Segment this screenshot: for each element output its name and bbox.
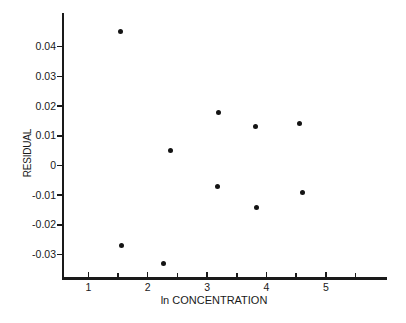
x-tick-label: 2 (136, 281, 160, 293)
x-minor-tick (355, 273, 357, 277)
x-axis-line (62, 277, 387, 279)
data-point (215, 184, 220, 189)
data-point (119, 243, 124, 248)
y-tick (57, 76, 62, 78)
x-minor-tick (295, 273, 297, 277)
data-point (300, 190, 305, 195)
y-tick-label: -0.01 (12, 189, 56, 202)
y-tick (57, 224, 62, 226)
y-tick (57, 165, 62, 167)
x-minor-tick (117, 273, 119, 277)
data-point (118, 29, 123, 34)
x-tick-label: 1 (76, 281, 100, 293)
data-point (254, 205, 259, 210)
x-major-tick (266, 272, 268, 277)
y-tick-label: -0.03 (12, 248, 56, 261)
plot-area: RESIDUAL ln CONCENTRATION 123450.040.030… (0, 0, 406, 323)
y-tick-label: -0.02 (12, 218, 56, 231)
x-major-tick (206, 272, 208, 277)
y-tick (57, 46, 62, 48)
x-axis-title: ln CONCENTRATION (161, 294, 268, 306)
x-major-tick (88, 272, 90, 277)
residual-scatter-figure: RESIDUAL ln CONCENTRATION 123450.040.030… (0, 0, 406, 323)
x-minor-tick (236, 273, 238, 277)
x-minor-tick (177, 273, 179, 277)
y-tick (57, 194, 62, 196)
y-tick (57, 254, 62, 256)
y-tick-label: 0.03 (12, 70, 56, 83)
x-major-tick (325, 272, 327, 277)
data-point (216, 110, 221, 115)
x-major-tick (147, 272, 149, 277)
y-tick-label: 0 (12, 159, 56, 172)
data-point (297, 121, 302, 126)
data-point (253, 124, 258, 129)
data-point (161, 261, 166, 266)
y-tick-label: 0.02 (12, 100, 56, 113)
x-tick-label: 5 (314, 281, 338, 293)
x-tick-label: 4 (255, 281, 279, 293)
y-axis-line (62, 13, 64, 280)
data-point (168, 148, 173, 153)
x-tick-label: 3 (195, 281, 219, 293)
y-tick-label: 0.04 (12, 40, 56, 53)
y-tick (57, 105, 62, 107)
y-tick (57, 135, 62, 137)
y-tick-label: 0.01 (12, 129, 56, 142)
